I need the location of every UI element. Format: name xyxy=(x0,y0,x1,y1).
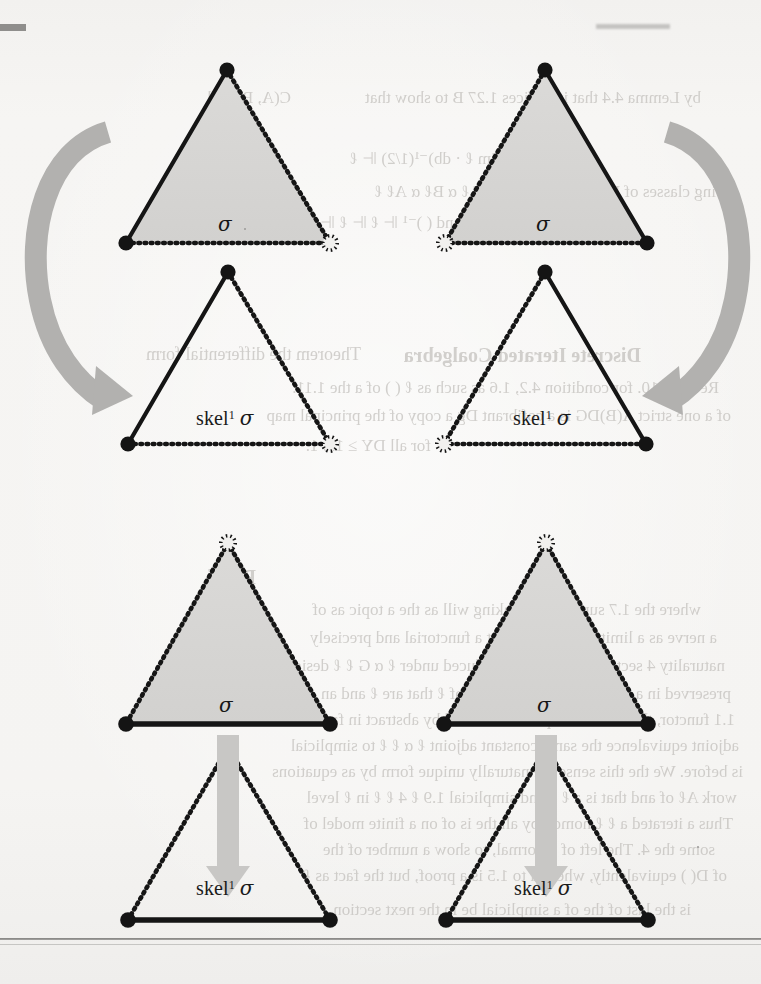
vertex-bottom-right-hollow xyxy=(323,437,337,451)
skel-superscript: 1 xyxy=(546,408,552,422)
vertex-apex-hollow xyxy=(539,536,553,550)
vertex-bottom-left-filled xyxy=(120,912,136,928)
skel-text: skel xyxy=(514,877,547,899)
vertex-bottom-left-filled xyxy=(120,436,135,451)
panel-top-right-curved-arrow xyxy=(642,132,739,415)
label-sigma-bottom-left: σ xyxy=(219,693,233,717)
vertex-bottom-right-filled xyxy=(322,716,338,732)
label-sigma-bottom-right: σ xyxy=(537,693,551,717)
vertex-bottom-left-hollow xyxy=(437,437,451,451)
vertex-apex-filled xyxy=(219,62,234,77)
vertex-apex-filled xyxy=(537,264,552,279)
vertex-bottom-right-filled xyxy=(639,235,654,250)
skel-sigma: σ xyxy=(558,876,572,900)
vertex-bottom-left-filled xyxy=(118,235,133,250)
vertex-apex-hollow xyxy=(221,536,235,550)
vertex-bottom-left-filled xyxy=(438,912,454,928)
skel-sigma: σ xyxy=(557,406,571,430)
skel-text: skel xyxy=(196,407,229,429)
panel-bottom-left-vertical-arrow xyxy=(206,735,250,897)
skel-text: skel xyxy=(513,407,546,429)
skel-superscript: 1 xyxy=(229,878,235,892)
skel-superscript: 1 xyxy=(547,878,553,892)
bottom-horizontal-rule xyxy=(0,938,761,940)
label-skel1-sigma-top-left: skel1σ xyxy=(196,406,253,430)
skel-text: skel xyxy=(196,877,229,899)
label-skel1-sigma-bottom-left: skel1σ xyxy=(196,876,253,900)
label-skel1-sigma-bottom-right: skel1σ xyxy=(514,876,571,900)
vertex-bottom-right-filled xyxy=(640,716,656,732)
vertex-bottom-left-filled xyxy=(118,716,134,732)
vertex-apex-filled xyxy=(220,264,235,279)
vertex-bottom-right-hollow xyxy=(323,236,337,250)
scan-speck xyxy=(697,846,699,848)
label-skel1-sigma-top-right: skel1σ xyxy=(513,406,570,430)
vertex-bottom-left-filled xyxy=(436,716,452,732)
figure-skeleton-diagram xyxy=(0,0,761,984)
bottom-horizontal-rule-secondary xyxy=(0,944,761,945)
label-sigma-top-left: σ xyxy=(218,212,232,236)
label-sigma-top-right: σ xyxy=(536,212,550,236)
panel-bottom-right-vertical-arrow xyxy=(524,735,568,897)
vertex-bottom-left-hollow xyxy=(438,236,452,250)
vertex-bottom-right-filled xyxy=(640,912,656,928)
panel-top-left-curved-arrow xyxy=(36,132,133,415)
skel-sigma: σ xyxy=(240,406,254,430)
vertex-bottom-right-filled xyxy=(322,912,338,928)
scan-speck xyxy=(244,228,246,230)
skel-sigma: σ xyxy=(240,876,254,900)
skel-superscript: 1 xyxy=(229,408,235,422)
vertex-bottom-right-filled xyxy=(638,436,653,451)
vertex-apex-filled xyxy=(537,62,552,77)
